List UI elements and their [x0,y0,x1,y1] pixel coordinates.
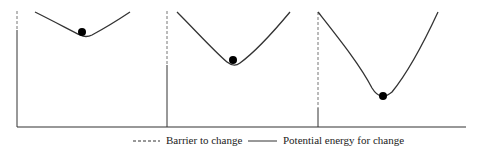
panel-high-barrier [318,12,438,127]
legend-energy-label: Potential energy for change [283,134,404,146]
panel-medium-barrier [167,11,290,127]
ball-icon [229,56,237,64]
panel-low-barrier [17,11,130,127]
energy-barrier-diagram [0,0,484,154]
ball-icon [78,28,86,36]
energy-curve [318,12,438,96]
ball-icon [379,92,387,100]
legend-barrier-label: Barrier to change [166,134,242,146]
